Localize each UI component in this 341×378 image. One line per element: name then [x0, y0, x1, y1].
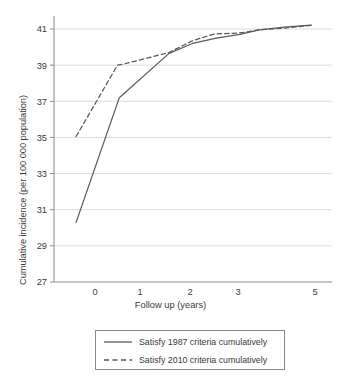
y-tick-label: 29 — [37, 241, 47, 251]
x-axis-title: Follow up (years) — [0, 300, 341, 310]
x-tick-label: 1 — [137, 287, 142, 297]
x-tick-label: 0 — [92, 287, 97, 297]
legend: Satisfy 1987 criteria cumulatively Satis… — [95, 330, 285, 370]
y-tick-label: 33 — [37, 169, 47, 179]
series-line-1 — [76, 25, 311, 222]
chart-figure: Cumulative incidence (per 100 000 popula… — [0, 0, 341, 378]
legend-swatch-solid-icon — [104, 337, 132, 347]
legend-item-1987: Satisfy 1987 criteria cumulatively — [104, 333, 267, 351]
x-tick-label: 5 — [312, 287, 317, 297]
y-tick-label: 41 — [37, 24, 47, 34]
legend-swatch-dashed-icon — [104, 355, 132, 365]
x-axis-ticks: 01235 — [92, 287, 317, 297]
legend-label-2010: Satisfy 2010 criteria cumulatively — [139, 355, 267, 365]
legend-label-1987: Satisfy 1987 criteria cumulatively — [139, 337, 267, 347]
data-series-group — [76, 25, 311, 222]
x-tick-label: 2 — [187, 287, 192, 297]
legend-item-2010: Satisfy 2010 criteria cumulatively — [104, 351, 267, 369]
y-tick-label: 27 — [37, 277, 47, 287]
x-tick-label: 3 — [235, 287, 240, 297]
y-tick-label: 35 — [37, 133, 47, 143]
y-axis-ticks: 2729313335373941 — [37, 24, 54, 287]
gridlines — [54, 29, 332, 246]
y-tick-label: 31 — [37, 205, 47, 215]
plot-area: 2729313335373941 01235 — [0, 0, 341, 300]
y-tick-label: 37 — [37, 97, 47, 107]
y-tick-label: 39 — [37, 61, 47, 71]
